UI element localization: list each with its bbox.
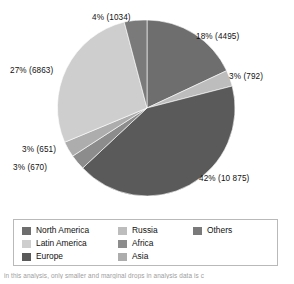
legend-label-russia: Russia — [132, 225, 158, 236]
slice-label-russia: 3% (792) — [229, 72, 263, 81]
legend-swatch-others — [193, 227, 202, 235]
chart-legend: North America Latin America Europe Russi… — [13, 219, 278, 266]
legend-swatch-russia — [118, 227, 127, 235]
pie-svg — [0, 0, 294, 216]
legend-swatch-europe — [22, 253, 31, 261]
legend-label-others: Others — [207, 225, 232, 236]
slice-label-africa: 3% (670) — [13, 163, 47, 172]
legend-swatch-africa — [118, 240, 127, 248]
slice-label-europe: 42% (10 875) — [199, 174, 249, 183]
legend-column-1: North America Latin America Europe — [22, 225, 118, 265]
cropped-caption-text: in this analysis, only smaller and margi… — [4, 272, 294, 279]
legend-item-latin-america[interactable]: Latin America — [22, 238, 118, 249]
pie-chart-figure: 4% (1034) 18% (4495) 3% (792) 42% (10 87… — [0, 0, 294, 284]
legend-label-europe: Europe — [36, 251, 63, 262]
slice-label-others: 4% (1034) — [92, 13, 131, 22]
legend-item-asia[interactable]: Asia — [118, 251, 193, 262]
legend-item-europe[interactable]: Europe — [22, 251, 118, 262]
slice-label-north-america: 18% (4495) — [196, 32, 239, 41]
legend-label-asia: Asia — [132, 251, 148, 262]
slice-label-asia: 3% (651) — [22, 145, 56, 154]
legend-item-others[interactable]: Others — [193, 225, 263, 236]
legend-column-3: Others — [193, 225, 263, 265]
legend-item-russia[interactable]: Russia — [118, 225, 193, 236]
legend-label-north-america: North America — [36, 225, 89, 236]
legend-label-africa: Africa — [132, 238, 153, 249]
legend-column-2: Russia Africa Asia — [118, 225, 193, 265]
legend-swatch-north-america — [22, 227, 31, 235]
pie-plot-area: 4% (1034) 18% (4495) 3% (792) 42% (10 87… — [0, 0, 294, 216]
legend-item-north-america[interactable]: North America — [22, 225, 118, 236]
legend-label-latin-america: Latin America — [36, 238, 87, 249]
legend-swatch-latin-america — [22, 240, 31, 248]
legend-swatch-asia — [118, 253, 127, 261]
legend-item-africa[interactable]: Africa — [118, 238, 193, 249]
slice-label-latin-america: 27% (6863) — [10, 66, 53, 75]
